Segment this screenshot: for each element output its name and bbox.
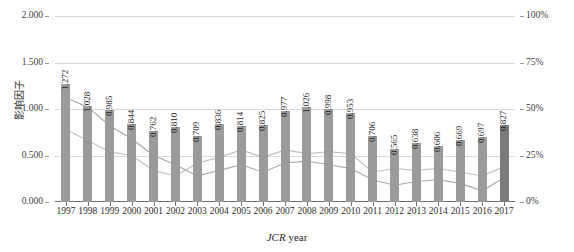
bar-value-label: 0.810	[170, 112, 179, 132]
y-axis-right-tick: 50%	[526, 104, 543, 114]
y-axis-right-tickmark	[520, 202, 524, 203]
bar	[149, 131, 158, 202]
bar-value-label: 0.977	[280, 97, 289, 117]
x-axis-tickmark	[66, 202, 67, 206]
x-axis-tickmark	[154, 202, 155, 206]
x-axis-title-jcr: JCR	[267, 231, 286, 243]
bar	[412, 143, 421, 202]
bar-value-label: 0.709	[192, 122, 201, 142]
chart-container: 2.000 1.500 1.000 0.500 0.000 100% 75% 5…	[0, 0, 574, 252]
bar-value-label: 0.985	[105, 96, 114, 116]
x-axis-title: JCR year	[0, 231, 574, 243]
bar-value-label: 0.953	[346, 99, 355, 119]
y-axis-left-tick: 0.500	[22, 151, 43, 161]
y-axis-right-tickmark	[520, 156, 524, 157]
y-axis-left-tickmark	[45, 156, 49, 157]
bar-value-label: 0.827	[499, 111, 508, 131]
x-axis-tickmark	[351, 202, 352, 206]
x-axis-tickmark	[219, 202, 220, 206]
x-axis-tickmark	[329, 202, 330, 206]
x-axis-tick-label: 2017	[490, 207, 518, 217]
bar	[324, 109, 333, 202]
y-axis-right-tick: 25%	[526, 151, 543, 161]
bar	[500, 125, 509, 202]
bar	[434, 146, 443, 202]
x-axis-tickmark	[285, 202, 286, 206]
y-axis-left-tickmark	[45, 202, 49, 203]
bar	[61, 84, 70, 202]
x-axis-tickmark	[197, 202, 198, 206]
x-axis-tickmark	[460, 202, 461, 206]
bar-value-label: 0.565	[390, 135, 399, 155]
x-axis-tickmark	[373, 202, 374, 206]
bar	[127, 124, 136, 202]
bar	[346, 113, 355, 202]
bar-value-label: 0.638	[411, 128, 420, 148]
bar	[302, 107, 311, 202]
bar	[390, 149, 399, 202]
y-axis-right: 100% 75% 50% 25% 0%	[519, 0, 571, 252]
bar	[456, 140, 465, 202]
x-axis-tickmark	[395, 202, 396, 206]
bar	[83, 106, 92, 202]
y-axis-right-tickmark	[520, 63, 524, 64]
x-axis-tickmark	[263, 202, 264, 206]
y-axis-left-tick: 1.500	[22, 58, 43, 68]
y-axis-right-tick: 100%	[526, 11, 548, 21]
y-axis-left-tickmark	[45, 109, 49, 110]
y-axis-right-tick: 75%	[526, 58, 543, 68]
bar	[105, 110, 114, 202]
y-axis-right-tickmark	[520, 109, 524, 110]
y-axis-left-tick: 2.000	[22, 11, 43, 21]
x-axis-tickmark	[132, 202, 133, 206]
bar	[259, 125, 268, 202]
bar-value-label: 0.825	[258, 111, 267, 131]
bar	[193, 136, 202, 202]
x-axis-tickmark	[416, 202, 417, 206]
bar-value-label: 0.706	[368, 122, 377, 142]
bar-value-label: 1.028	[83, 92, 92, 112]
x-axis-tickmark	[110, 202, 111, 206]
x-axis-tickmark	[175, 202, 176, 206]
bar-value-label: 0.606	[433, 131, 442, 151]
bar-value-label: 0.814	[236, 112, 245, 132]
x-axis-title-year: year	[288, 231, 307, 243]
y-axis-left-tickmark	[45, 16, 49, 17]
bar-value-label: 0.844	[127, 109, 136, 129]
x-axis-tickmark	[482, 202, 483, 206]
x-axis-tickmark	[88, 202, 89, 206]
bar-value-label: 1.026	[302, 92, 311, 112]
bar	[215, 124, 224, 202]
x-axis-tickmark	[438, 202, 439, 206]
x-axis-tickmark	[307, 202, 308, 206]
bar	[368, 136, 377, 202]
bar-value-label: 0.836	[214, 110, 223, 130]
bar	[237, 126, 246, 202]
bar	[281, 111, 290, 202]
bar-value-label: 0.697	[477, 123, 486, 143]
bar-value-label: 0.998	[324, 95, 333, 115]
y-axis-left-tick: 0.000	[22, 197, 43, 207]
x-axis-tickmark	[241, 202, 242, 206]
y-axis-left-title: 影响因子	[11, 80, 26, 120]
y-axis-left-tickmark	[45, 63, 49, 64]
x-axis-tickmark	[504, 202, 505, 206]
bar-value-label: 1.272	[61, 69, 70, 89]
bar-value-label: 0.762	[149, 117, 158, 137]
y-axis-right-tick: 0%	[526, 197, 539, 207]
bar	[478, 137, 487, 202]
bar	[171, 127, 180, 202]
y-axis-left: 2.000 1.500 1.000 0.500 0.000	[0, 0, 50, 252]
bar-value-label: 0.669	[455, 126, 464, 146]
y-axis-right-tickmark	[520, 16, 524, 17]
